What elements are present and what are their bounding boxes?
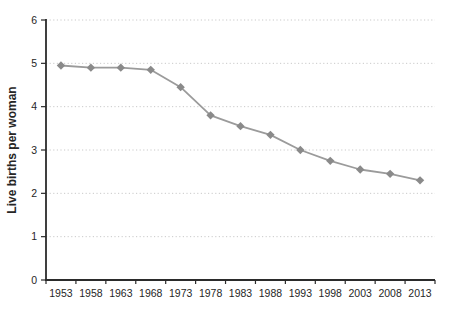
data-point-2013 [416, 176, 424, 184]
data-point-1968 [147, 66, 155, 74]
line-chart-canvas: Live births per woman 012345619531958196… [0, 0, 451, 309]
x-tick-label-1963: 1963 [109, 287, 133, 299]
data-point-1963 [117, 63, 125, 71]
data-point-1993 [296, 146, 304, 154]
x-tick-label-1958: 1958 [79, 287, 103, 299]
data-point-1988 [266, 131, 274, 139]
x-tick-label-1953: 1953 [49, 287, 73, 299]
y-tick-label-6: 6 [31, 14, 37, 26]
x-tick-label-2013: 2013 [408, 287, 432, 299]
x-tick-label-1973: 1973 [169, 287, 193, 299]
y-tick-label-2: 2 [31, 187, 37, 199]
y-tick-label-0: 0 [31, 274, 37, 286]
y-tick-label-3: 3 [31, 144, 37, 156]
y-axis-title: Live births per woman [5, 86, 19, 213]
data-point-2003 [356, 165, 364, 173]
y-tick-label-4: 4 [31, 100, 37, 112]
data-point-1958 [87, 63, 95, 71]
y-tick-label-1: 1 [31, 230, 37, 242]
x-tick-label-1983: 1983 [229, 287, 253, 299]
x-tick-label-1988: 1988 [259, 287, 283, 299]
x-tick-label-1968: 1968 [139, 287, 163, 299]
y-tick-label-5: 5 [31, 57, 37, 69]
data-point-2008 [386, 170, 394, 178]
x-tick-label-2008: 2008 [378, 287, 402, 299]
data-point-1998 [326, 157, 334, 165]
x-tick-label-1978: 1978 [199, 287, 223, 299]
x-tick-label-1993: 1993 [289, 287, 313, 299]
data-point-1953 [57, 61, 65, 69]
data-point-1983 [236, 122, 244, 130]
x-tick-label-1998: 1998 [319, 287, 343, 299]
x-tick-label-2003: 2003 [349, 287, 373, 299]
fertility-rate-line-chart: Live births per woman 012345619531958196… [0, 0, 451, 309]
